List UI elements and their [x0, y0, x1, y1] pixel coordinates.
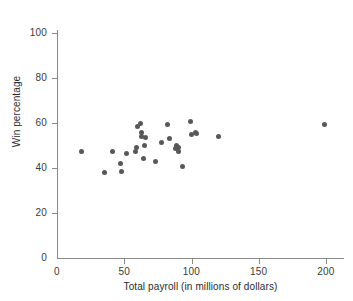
data-point	[79, 149, 84, 154]
y-tick-label: 20	[3, 207, 47, 218]
y-tick-label: 100	[3, 27, 47, 38]
data-point	[102, 170, 107, 175]
data-point	[188, 119, 193, 124]
x-axis-line	[57, 258, 344, 259]
x-axis-title: Total payroll (in millions of dollars)	[57, 281, 344, 292]
x-tick-label: 200	[306, 266, 346, 277]
data-point	[141, 156, 146, 161]
y-axis-title: Win percentage	[11, 52, 22, 172]
data-point	[180, 164, 185, 169]
data-point	[134, 145, 139, 150]
x-tick-label: 100	[172, 266, 212, 277]
x-tick-mark	[259, 259, 260, 264]
y-axis-line	[57, 30, 58, 259]
data-point	[176, 145, 181, 150]
data-point	[142, 143, 147, 148]
data-point	[124, 151, 129, 156]
y-tick-mark	[52, 78, 58, 79]
data-point	[216, 134, 221, 139]
x-tick-label: 150	[239, 266, 279, 277]
data-point	[143, 135, 148, 140]
y-tick-mark	[52, 33, 58, 34]
data-point	[167, 136, 172, 141]
y-tick-label: 0	[3, 252, 47, 263]
data-point	[138, 121, 143, 126]
data-point	[322, 122, 327, 127]
scatter-plot-figure: 020406080100 050100150200 Win percentage…	[0, 0, 353, 301]
x-tick-mark	[192, 259, 193, 264]
x-tick-mark	[124, 259, 125, 264]
data-point	[118, 161, 123, 166]
y-tick-mark	[52, 123, 58, 124]
plot-area	[0, 0, 353, 301]
y-tick-mark	[52, 213, 58, 214]
x-tick-label: 0	[37, 266, 77, 277]
y-tick-mark	[52, 168, 58, 169]
data-point	[110, 149, 115, 154]
data-point	[194, 131, 199, 136]
x-tick-label: 50	[104, 266, 144, 277]
data-point	[159, 140, 164, 145]
x-tick-mark	[326, 259, 327, 264]
data-point	[176, 149, 181, 154]
data-point	[119, 169, 124, 174]
data-point	[165, 122, 170, 127]
data-point	[153, 159, 158, 164]
